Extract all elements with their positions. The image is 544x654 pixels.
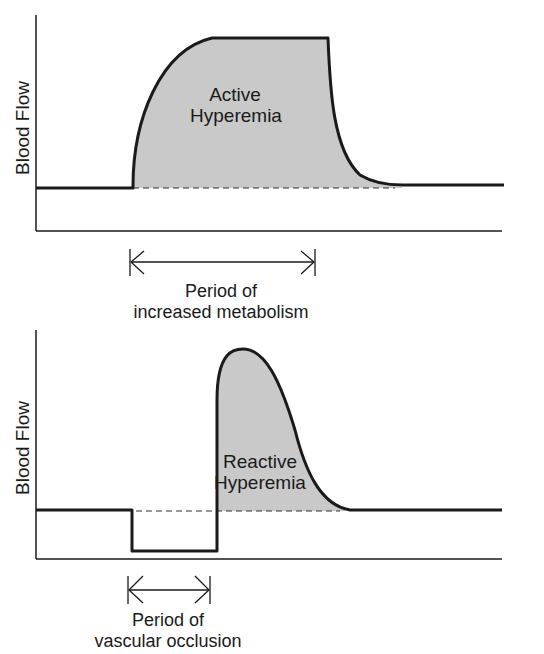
- region-label: Hyperemia: [214, 472, 306, 493]
- bracket-label: Period of: [132, 610, 205, 630]
- region-label: Hyperemia: [190, 105, 282, 126]
- bracket-label: Period of: [185, 281, 258, 301]
- period-bracket: [128, 576, 210, 604]
- region-label: Active: [209, 84, 261, 105]
- y-axis-label: Blood Flow: [12, 81, 33, 175]
- bracket-label: vascular occlusion: [94, 631, 241, 651]
- period-bracket: [130, 249, 315, 276]
- reactive-hyperemia-panel: Blood Flow Reactive Hyperemia Period of …: [12, 330, 502, 651]
- hyperemia-diagram: Blood Flow Active Hyperemia Period of in…: [0, 0, 544, 654]
- y-axis-label: Blood Flow: [12, 401, 33, 495]
- active-hyperemia-panel: Blood Flow Active Hyperemia Period of in…: [12, 15, 504, 322]
- bracket-label: increased metabolism: [133, 302, 308, 322]
- region-label: Reactive: [223, 451, 297, 472]
